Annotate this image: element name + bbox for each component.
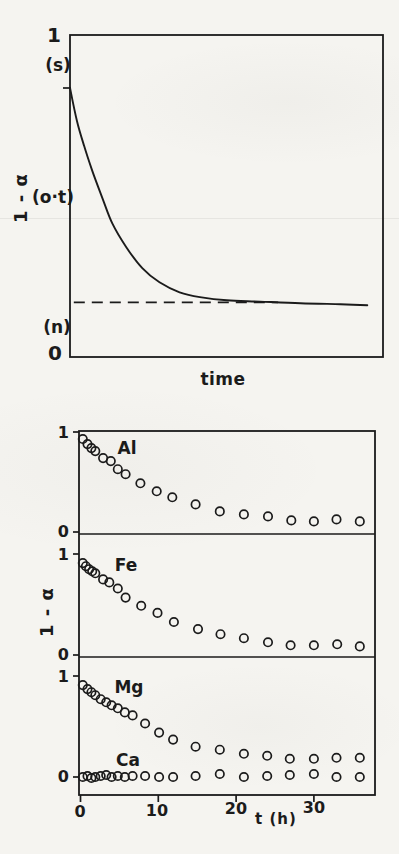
- ca-series-points: [79, 770, 364, 782]
- data-point-mg: [310, 755, 318, 763]
- top-plot-frame: [70, 35, 383, 357]
- schematic-decay-chart: 1 0 (s) (o·t) (n) 1 - α time: [0, 0, 399, 410]
- annotation-s: (s): [45, 55, 71, 75]
- data-point-al: [191, 500, 199, 508]
- fe-ytick-0: 0: [58, 645, 69, 664]
- top-y-axis-label: 1 - α: [10, 173, 31, 223]
- data-point-fe: [153, 609, 161, 617]
- element-release-chart: 1 0 1 0 1 0 0 10 20 30 t (h) 1 - α Al Fe…: [0, 410, 399, 854]
- decay-curve: [70, 88, 367, 305]
- data-point-al: [264, 512, 272, 520]
- data-point-ca: [141, 772, 149, 780]
- xtick-10: 10: [146, 801, 168, 820]
- data-point-fe: [333, 640, 341, 648]
- data-point-fe: [286, 641, 294, 649]
- data-point-fe: [137, 602, 145, 610]
- data-point-ca: [191, 772, 199, 780]
- data-point-ca: [332, 773, 340, 781]
- data-point-mg: [155, 728, 163, 736]
- data-point-fe: [121, 593, 129, 601]
- data-point-ca: [240, 773, 248, 781]
- series-label-fe: Fe: [115, 555, 137, 575]
- xtick-0: 0: [74, 802, 85, 821]
- data-point-mg: [332, 754, 340, 762]
- data-point-fe: [194, 625, 202, 633]
- data-point-fe: [240, 634, 248, 642]
- mg-ytick-0: 0: [58, 767, 69, 786]
- data-point-al: [287, 516, 295, 524]
- scanned-figure-page: 1 0 (s) (o·t) (n) 1 - α time 1 0 1 0 1 0…: [0, 0, 399, 854]
- decay-curve-path: [70, 88, 367, 305]
- data-point-mg: [216, 746, 224, 754]
- data-point-ca: [169, 773, 177, 781]
- data-point-ca: [155, 773, 163, 781]
- data-point-mg: [141, 719, 149, 727]
- data-point-fe: [264, 638, 272, 646]
- data-point-fe: [114, 584, 122, 592]
- data-point-al: [356, 517, 364, 525]
- series-label-ca: Ca: [116, 750, 140, 770]
- data-point-al: [168, 493, 176, 501]
- data-point-ca: [286, 771, 294, 779]
- data-point-ca: [310, 770, 318, 778]
- data-point-al: [107, 457, 115, 465]
- data-point-ca: [216, 770, 224, 778]
- data-point-mg: [263, 752, 271, 760]
- data-point-fe: [216, 630, 224, 638]
- data-point-mg: [286, 755, 294, 763]
- data-point-al: [216, 507, 224, 515]
- data-point-mg: [240, 750, 248, 758]
- bottom-y-axis-label: 1 - α: [36, 587, 57, 637]
- data-point-al: [332, 515, 340, 523]
- data-point-al: [121, 470, 129, 478]
- data-point-al: [114, 465, 122, 473]
- xtick-20: 20: [225, 799, 247, 818]
- bottom-x-axis-label: t (h): [255, 810, 297, 828]
- top-ytick-1: 1: [47, 23, 61, 47]
- data-point-mg: [128, 711, 136, 719]
- data-point-mg: [191, 743, 199, 751]
- al-ytick-0: 0: [58, 522, 69, 541]
- data-point-fe: [170, 618, 178, 626]
- data-point-ca: [102, 771, 110, 779]
- top-ytick-0: 0: [48, 341, 62, 365]
- data-point-mg: [356, 754, 364, 762]
- data-point-al: [240, 510, 248, 518]
- series-label-mg: Mg: [114, 677, 143, 697]
- annotation-ot: (o·t): [32, 187, 74, 207]
- data-point-ca: [356, 773, 364, 781]
- data-point-al: [136, 479, 144, 487]
- data-point-al: [310, 517, 318, 525]
- xtick-30: 30: [303, 798, 325, 817]
- data-point-fe: [310, 641, 318, 649]
- bottom-plot-frame: [79, 431, 375, 795]
- data-point-mg: [169, 735, 177, 743]
- mg-ytick-1: 1: [58, 667, 69, 686]
- data-point-ca: [263, 772, 271, 780]
- al-ytick-1: 1: [58, 423, 69, 442]
- annotation-n: (n): [43, 317, 71, 337]
- top-x-axis-label: time: [200, 369, 245, 389]
- data-point-al: [153, 487, 161, 495]
- series-label-al: Al: [118, 438, 137, 458]
- fe-ytick-1: 1: [58, 545, 69, 564]
- data-point-fe: [356, 642, 364, 650]
